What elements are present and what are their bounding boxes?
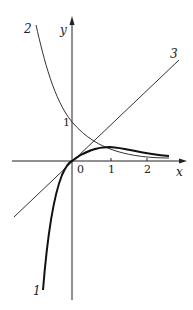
x-tick-label-0: 0 [77,164,84,175]
curve-label-2: 2 [24,23,32,35]
curve-2 [36,25,169,158]
x-tick-label-2: 2 [144,164,151,175]
curve-label-1: 1 [33,285,41,297]
plot-canvas [0,0,193,310]
x-axis-label: x [176,166,183,178]
y-tick-label-1: 1 [63,117,70,128]
curve-label-3: 3 [170,48,178,60]
x-tick-label-1: 1 [108,164,115,175]
y-axis-label: y [60,24,67,36]
x-axis-arrow-icon [179,159,187,164]
y-axis-arrow-icon [70,16,75,25]
curve-3 [14,60,179,217]
